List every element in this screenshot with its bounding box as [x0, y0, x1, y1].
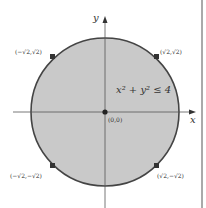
origin-point — [102, 109, 107, 114]
disk-diagram: y x (0,0) x² + y² ≤ 4 (−√2,√2) (√2,√2) (… — [0, 0, 206, 208]
point-neg-pos — [50, 54, 55, 59]
point-pos-neg — [154, 163, 159, 168]
point-label-pos-neg: (√2,−√2) — [157, 172, 184, 179]
point-pos-pos — [154, 54, 159, 59]
origin-label: (0,0) — [108, 116, 122, 123]
y-axis-arrow-icon — [103, 16, 108, 23]
point-label-pos-pos: (√2,√2) — [160, 48, 182, 55]
point-neg-neg — [50, 163, 55, 168]
point-label-neg-pos: (−√2,√2) — [15, 48, 42, 55]
point-label-neg-neg: (−√2,−√2) — [10, 172, 42, 179]
x-axis-label: x — [190, 114, 196, 125]
y-axis-label: y — [92, 12, 99, 23]
inequality-label: x² + y² ≤ 4 — [116, 84, 171, 95]
